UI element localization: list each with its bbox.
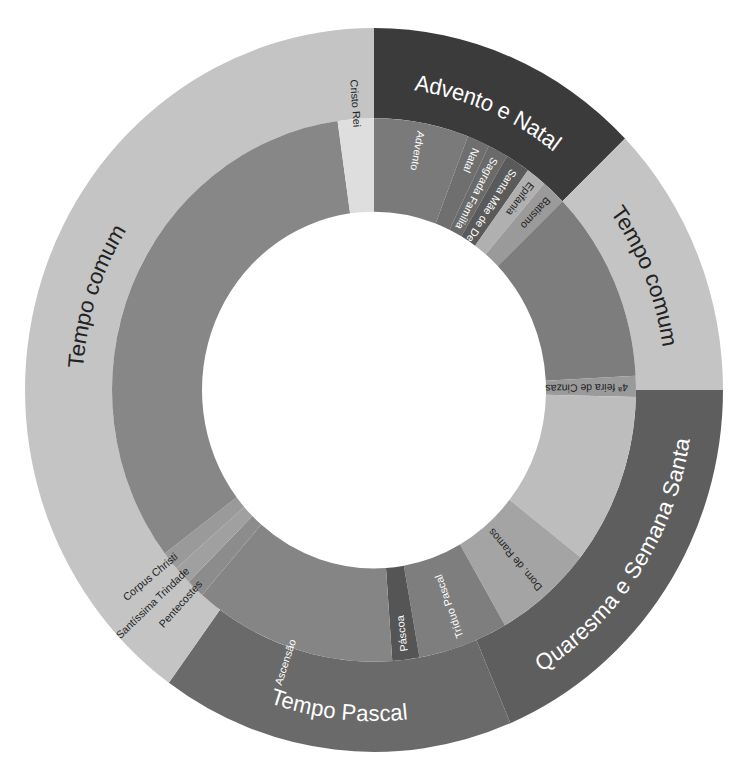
- liturgical-year-sunburst: Advento e NatalTempo comumQuaresma e Sem…: [0, 0, 749, 778]
- inner-label-4-feira-de-cinzas: 4ª feira de Cinzas: [545, 382, 628, 395]
